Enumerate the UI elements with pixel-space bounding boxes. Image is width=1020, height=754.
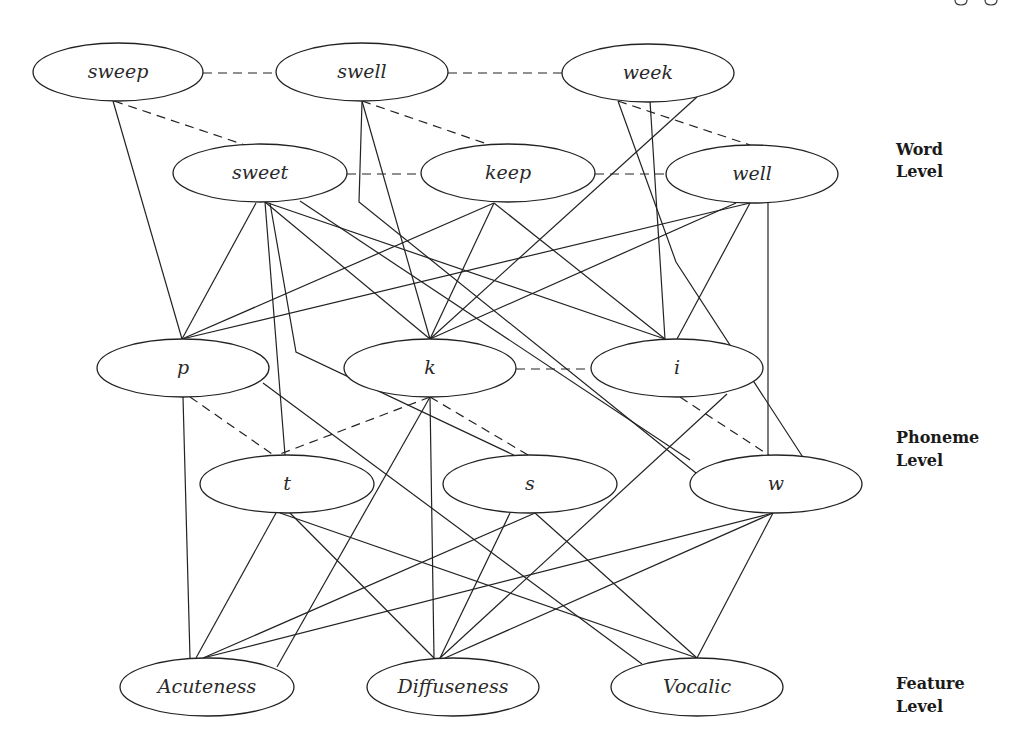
node-i: i (591, 339, 763, 397)
node-label: Diffuseness (397, 675, 509, 697)
node-sweet: sweet (173, 144, 347, 202)
node-acuteness: Acuteness (120, 658, 294, 716)
node-label: t (283, 472, 291, 494)
excitatory-edge-p-vocalic (263, 383, 642, 664)
cropped-header-fragment (955, 0, 997, 5)
node-label: w (768, 472, 784, 494)
node-swell: swell (276, 43, 448, 101)
level-label-line1: Feature (896, 674, 965, 693)
excitatory-edge-s-acuteness (203, 513, 535, 658)
word-level-label: Word Level (895, 140, 943, 181)
excitatory-edge-k-diffuseness (430, 397, 434, 658)
excitatory-edge-s-vocalic (535, 513, 697, 658)
excitatory-edge-keep-k (430, 203, 494, 339)
node-p: p (97, 339, 269, 397)
inhibitory-connections (114, 73, 770, 456)
excitatory-edge-w-acuteness (203, 513, 773, 658)
inhibitory-edge-k-s (430, 397, 528, 455)
node-s: s (443, 455, 617, 513)
node-label: i (674, 356, 680, 378)
level-labels: Word Level Phoneme Level Feature Level (895, 140, 979, 716)
node-well: well (666, 145, 838, 203)
node-keep: keep (421, 144, 595, 202)
inhibitory-edge-k-t (275, 397, 430, 456)
node-k: k (344, 339, 516, 397)
excitatory-edge-sweet-p (182, 203, 256, 339)
node-t: t (200, 455, 374, 513)
excitatory-edge-well-k (430, 203, 736, 339)
node-label: week (623, 61, 673, 83)
excitatory-edge-w-vocalic (697, 513, 773, 658)
node-label: s (525, 472, 535, 494)
inhibitory-edge-i-w (680, 397, 770, 456)
level-label-line2: Level (896, 451, 943, 470)
node-label: Acuteness (156, 675, 257, 697)
inhibitory-edge-sweep-sweet (114, 101, 245, 145)
excitatory-edge-sweet-w (300, 201, 690, 460)
node-label: swell (337, 60, 386, 82)
node-vocalic: Vocalic (611, 658, 783, 716)
node-label: well (732, 162, 772, 184)
excitatory-edge-swell-k (362, 101, 430, 339)
excitatory-edge-sweet-i (265, 202, 665, 339)
node-label: sweet (232, 161, 289, 183)
inhibitory-edge-p-t (190, 397, 275, 456)
inhibitory-edge-week-well (618, 101, 750, 145)
excitatory-edge-p-acuteness (183, 397, 190, 658)
node-label: sweep (88, 60, 149, 82)
node-label: p (177, 356, 189, 378)
excitatory-edge-w-diffuseness (445, 513, 773, 658)
node-week: week (562, 44, 734, 102)
excitatory-edge-sweet-s (270, 203, 520, 458)
node-label: k (424, 356, 436, 378)
excitatory-edge-t-diffuseness (290, 513, 434, 658)
phoneme-level-label: Phoneme Level (896, 428, 979, 470)
level-label-line1: Word (895, 140, 943, 159)
node-diffuseness: Diffuseness (367, 658, 539, 716)
network-nodes: sweepswellweeksweetkeepwellpkitswAcutene… (33, 43, 862, 716)
node-w: w (690, 455, 862, 513)
node-label: keep (485, 161, 531, 183)
level-label-line1: Phoneme (896, 428, 979, 447)
word-recognition-network-diagram: sweepswellweeksweetkeepwellpkitswAcutene… (0, 0, 1020, 754)
node-sweep: sweep (33, 43, 203, 101)
excitatory-edge-keep-p (182, 203, 494, 339)
excitatory-edge-s-diffuseness (440, 513, 510, 658)
excitatory-edge-week-i (650, 101, 665, 339)
excitatory-edge-t-acuteness (196, 513, 276, 658)
excitatory-edge-k-acuteness (277, 397, 430, 667)
excitatory-edge-sweet-t (265, 202, 285, 455)
excitatory-edge-sweep-p (113, 101, 182, 339)
inhibitory-edge-swell-keep (362, 101, 490, 145)
level-label-line2: Level (896, 162, 943, 181)
feature-level-label: Feature Level (896, 674, 965, 716)
level-label-line2: Level (896, 697, 943, 716)
excitatory-edge-keep-i (494, 203, 665, 339)
node-label: Vocalic (663, 675, 732, 697)
